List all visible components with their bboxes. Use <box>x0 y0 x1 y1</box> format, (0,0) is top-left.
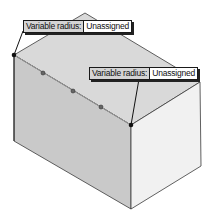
radius-value-field[interactable]: Unassigned <box>83 21 131 32</box>
callout-label: Variable radius: <box>24 21 83 32</box>
control-point-icon[interactable] <box>41 71 45 75</box>
variable-radius-callout-end[interactable]: Variable radius: Unassigned <box>89 67 198 80</box>
callout-label: Variable radius: <box>90 68 149 79</box>
edge-endpoint-icon[interactable] <box>12 53 17 58</box>
radius-value-field[interactable]: Unassigned <box>149 68 197 79</box>
variable-radius-callout-start[interactable]: Variable radius: Unassigned <box>23 20 132 33</box>
graphics-viewport[interactable]: Variable radius: Unassigned Variable rad… <box>0 0 217 221</box>
control-point-icon[interactable] <box>99 105 103 109</box>
model-view <box>0 0 217 221</box>
control-point-icon[interactable] <box>71 89 75 93</box>
edge-endpoint-icon[interactable] <box>129 123 134 128</box>
